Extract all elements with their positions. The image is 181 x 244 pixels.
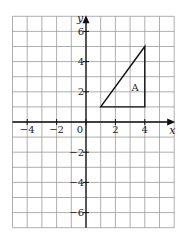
x-tick-label: −2 — [49, 124, 64, 135]
y-tick-label: −4 — [69, 177, 84, 188]
y-tick-label: −6 — [69, 207, 84, 218]
x-tick-label: 2 — [112, 124, 118, 135]
triangle-label: A — [131, 82, 140, 93]
x-tick-label: −4 — [20, 124, 35, 135]
y-tick-label: 2 — [78, 86, 84, 97]
x-tick-label: 4 — [142, 124, 148, 135]
x-tick-label: 0 — [77, 124, 83, 135]
axes: x y — [13, 12, 177, 227]
coordinate-plane: x y −4−2024 642−2−4−6 A — [0, 0, 181, 244]
y-tick-label: 6 — [78, 26, 84, 37]
y-tick-label: 4 — [78, 56, 84, 67]
x-axis-label: x — [169, 124, 176, 137]
y-tick-label: −2 — [69, 147, 84, 158]
y-axis-label: y — [76, 12, 84, 25]
